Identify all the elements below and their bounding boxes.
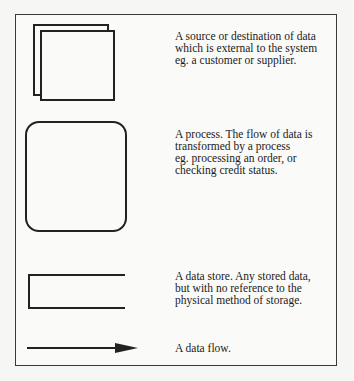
description-line: A data store. Any stored data, — [175, 270, 335, 282]
description-line: checking credit status. — [175, 164, 335, 176]
description-line: A process. The flow of data is — [175, 128, 335, 140]
data-store-description: A data store. Any stored data, but with … — [175, 270, 335, 306]
description-line: eg. a customer or supplier. — [175, 54, 335, 66]
description-line: A source or destination of data — [175, 30, 335, 42]
description-line: physical method of storage. — [175, 294, 335, 306]
external-entity-description: A source or destination of data which is… — [175, 30, 335, 66]
external-entity-front-square-icon — [40, 30, 115, 101]
description-line: but with no reference to the — [175, 282, 335, 294]
data-flow-description: A data flow. — [175, 342, 335, 354]
description-line: eg. processing an order, or — [175, 152, 335, 164]
data-store-open-rect-icon — [28, 274, 125, 309]
data-flow-arrow-icon — [27, 341, 139, 355]
description-line: A data flow. — [175, 342, 335, 354]
description-line: which is external to the system — [175, 42, 335, 54]
process-description: A process. The flow of data is transform… — [175, 128, 335, 176]
process-rounded-rect-icon — [25, 121, 127, 232]
description-line: transformed by a process — [175, 140, 335, 152]
